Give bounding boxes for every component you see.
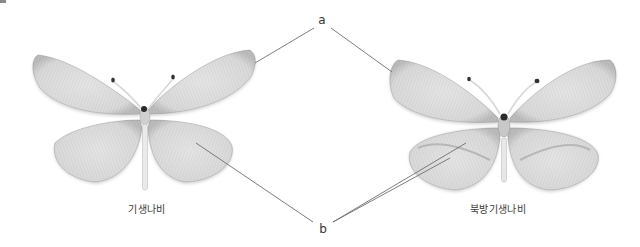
butterfly-left-illustration [33, 50, 255, 190]
diagram-canvas [0, 0, 640, 247]
pointer-a-line-left [255, 28, 314, 63]
caption-right-specimen: 북방기생나비 [470, 201, 526, 216]
pointer-label-a: a [318, 13, 325, 27]
pointer-a-line-right [331, 28, 392, 72]
pointer-b-line-left [196, 143, 313, 222]
pointer-b-line-right-lower [333, 158, 450, 222]
pointer-label-b: b [319, 222, 327, 236]
caption-left-specimen: 기생나비 [128, 201, 165, 216]
